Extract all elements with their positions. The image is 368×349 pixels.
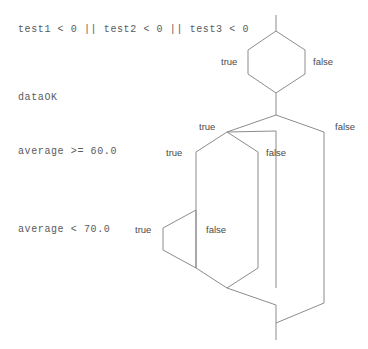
branch-label-avg70-false: false xyxy=(206,224,226,235)
condition-label-average-70: average < 70.0 xyxy=(18,224,110,236)
avg70-true-edge xyxy=(163,210,196,228)
branch-label-dataok-true: true xyxy=(199,121,215,132)
dataok-false-merge-edge xyxy=(276,132,324,323)
decision-diagram: test1 < 0 || test2 < 0 || test3 < 0 data… xyxy=(0,0,368,349)
branch-label-avg60-true: true xyxy=(166,147,182,158)
hexagon-test-condition xyxy=(248,31,305,93)
branch-label-dataok-false: false xyxy=(335,121,355,132)
branch-label-test-true: true xyxy=(221,56,237,67)
dataok-true-edge xyxy=(227,115,276,132)
branch-label-avg60-false: false xyxy=(266,147,286,158)
flowchart-edges xyxy=(0,0,368,349)
avg60-true-edge xyxy=(196,132,227,152)
hexagon-avg60-body xyxy=(196,152,258,288)
condition-label-average-60: average >= 60.0 xyxy=(18,146,117,158)
condition-label-dataok: dataOK xyxy=(18,92,58,104)
condition-label-test: test1 < 0 || test2 < 0 || test3 < 0 xyxy=(18,24,249,36)
hexagon-avg70-body xyxy=(163,228,196,268)
branch-label-test-false: false xyxy=(313,56,333,67)
branch-label-avg70-true: true xyxy=(135,224,151,235)
avg60-false-edge xyxy=(227,132,258,152)
dataok-false-edge xyxy=(276,115,324,132)
avg60-merge-edge xyxy=(227,288,276,305)
